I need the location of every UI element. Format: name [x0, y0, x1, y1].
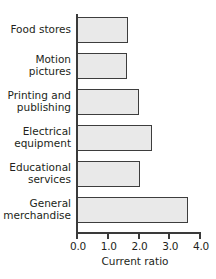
bar — [77, 17, 128, 43]
category-label: Educationalservices — [0, 161, 71, 186]
category-label-line: Educational — [0, 161, 71, 174]
x-axis-tick — [138, 234, 140, 239]
x-axis-tick — [168, 234, 170, 239]
x-axis-tick-label: 0.0 — [61, 240, 95, 252]
bar — [77, 161, 140, 187]
x-axis-tick-label: 4.0 — [184, 240, 216, 252]
bar — [77, 197, 188, 223]
x-axis-tick-label: 1.0 — [92, 240, 126, 252]
category-label-line: Printing and — [0, 89, 71, 102]
category-label-line: equipment — [0, 137, 71, 150]
x-axis-tick — [107, 234, 109, 239]
category-label-line: pictures — [0, 65, 71, 78]
x-axis-tick-label: 3.0 — [153, 240, 187, 252]
category-label-line: merchandise — [0, 209, 71, 222]
x-axis-tick — [76, 234, 78, 239]
category-label-line: Motion — [0, 53, 71, 66]
bar — [77, 125, 152, 151]
x-axis-title: Current ratio — [0, 255, 216, 267]
category-label-line: services — [0, 173, 71, 186]
category-label: Motionpictures — [0, 53, 71, 78]
category-label: Generalmerchandise — [0, 197, 71, 222]
category-label: Food stores — [0, 23, 71, 36]
x-axis-tick-label: 2.0 — [123, 240, 157, 252]
bar — [77, 89, 139, 115]
bar — [77, 53, 127, 79]
y-axis-line — [76, 14, 78, 233]
category-label: Printing andpublishing — [0, 89, 71, 114]
bar-chart: Food storesMotionpicturesPrinting andpub… — [0, 0, 216, 279]
category-label-line: Food stores — [0, 23, 71, 36]
category-label: Electricalequipment — [0, 125, 71, 150]
category-label-line: General — [0, 197, 71, 210]
x-axis-tick — [199, 234, 201, 239]
category-label-line: Electrical — [0, 125, 71, 138]
category-label-line: publishing — [0, 101, 71, 114]
